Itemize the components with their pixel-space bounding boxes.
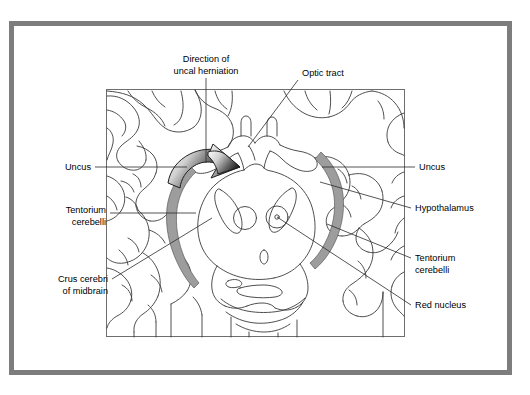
figure-root: Direction of uncal herniation Optic trac… <box>0 0 530 395</box>
tentorium-shaded-arcs <box>166 152 343 288</box>
label-crus-cerebri-line1: Crus cerebri <box>58 274 108 284</box>
label-red-nucleus: Red nucleus <box>415 300 466 310</box>
label-uncus-left: Uncus <box>65 162 91 172</box>
label-tentorium-cerebelli-right-line1: Tentorium <box>415 253 456 263</box>
label-optic-tract: Optic tract <box>302 68 344 78</box>
anatomy-figure-svg: Direction of uncal herniation Optic trac… <box>0 0 530 395</box>
label-hypothalamus: Hypothalamus <box>415 203 474 213</box>
leader-tentorium-right <box>327 224 411 258</box>
label-tentorium-cerebelli-left-line1: Tentorium <box>66 205 107 215</box>
outer-frame <box>12 24 510 373</box>
label-direction-uncal-herniation-line1: Direction of <box>183 54 230 64</box>
uncal-herniation-arrow <box>168 144 240 188</box>
label-direction-uncal-herniation-line2: uncal herniation <box>174 66 239 76</box>
label-tentorium-cerebelli-right-line2: cerebelli <box>415 265 449 275</box>
red-nucleus-left-circle <box>234 207 257 230</box>
label-crus-cerebri-line2: of midbrain <box>63 286 108 296</box>
label-uncus-right: Uncus <box>419 162 445 172</box>
label-tentorium-cerebelli-left-line2: cerebelli <box>72 217 106 227</box>
figure-labels: Direction of uncal herniation Optic trac… <box>58 54 474 310</box>
brain-section-outlines <box>107 90 404 337</box>
leader-crus-cerebri <box>112 218 212 279</box>
